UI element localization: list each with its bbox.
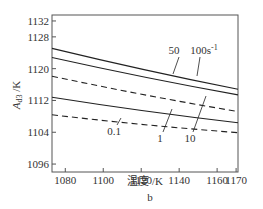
y-axis-title-unit: /K bbox=[10, 81, 22, 95]
curve-label: 1 bbox=[157, 132, 163, 144]
y-tick-label: 1104 bbox=[27, 126, 49, 138]
x-tick-label: 1080 bbox=[54, 174, 77, 186]
y-axis-title-sub: d3 bbox=[15, 95, 24, 103]
leader-line bbox=[163, 109, 172, 132]
curve-50 bbox=[52, 58, 238, 95]
curve-0.1 bbox=[52, 115, 238, 133]
chart: 109611041112112011281132 108011001120114… bbox=[0, 0, 263, 209]
curve-label: 10 bbox=[185, 132, 197, 144]
leader-line bbox=[173, 57, 179, 74]
curve-labels: 100s-1501010.1 bbox=[107, 43, 218, 144]
leader-line bbox=[197, 57, 200, 76]
curve-label: 50 bbox=[169, 44, 181, 56]
plot-area bbox=[52, 15, 238, 172]
x-tick-label: 1100 bbox=[92, 174, 114, 186]
curve-label: 100s-1 bbox=[190, 43, 217, 56]
x-tick-label: 1140 bbox=[168, 174, 190, 186]
leader-line bbox=[193, 96, 206, 132]
curve-1 bbox=[52, 97, 238, 122]
curve-label: 0.1 bbox=[107, 125, 121, 137]
x-tick-label: 1170 bbox=[225, 174, 247, 186]
y-axis-title: Ad3 /K bbox=[10, 81, 24, 111]
y-tick-label: 1096 bbox=[27, 158, 50, 170]
y-tick-label: 1132 bbox=[27, 15, 49, 27]
subfigure-label: b bbox=[147, 191, 153, 203]
x-axis-title: 温度 /K bbox=[127, 174, 163, 187]
curves bbox=[52, 48, 238, 132]
curve-10 bbox=[52, 76, 238, 111]
y-tick-label: 1112 bbox=[28, 94, 49, 106]
y-tick-label: 1120 bbox=[27, 63, 49, 75]
plot-frame bbox=[52, 15, 238, 172]
y-tick-label: 1128 bbox=[27, 31, 49, 43]
